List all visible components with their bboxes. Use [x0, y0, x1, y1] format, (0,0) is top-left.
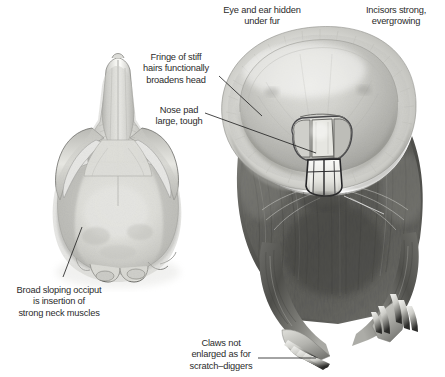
- mole-head-frontal-illustration: [220, 25, 430, 370]
- annotation-broad-sloping-occiput: Broad sloping occiput is insertion of st…: [2, 285, 116, 319]
- annotation-fringe-of-stiff-hairs: Fringe of stiff hairs functionally broad…: [134, 52, 218, 86]
- mole-skull-dorsal-illustration: [50, 54, 186, 289]
- annotation-incisors: Incisors strong, evergrowing: [348, 5, 444, 28]
- illustration-figure: Eye and ear hidden under fur Incisors st…: [0, 0, 445, 377]
- hidden-ear-region: [357, 86, 371, 95]
- annotation-claws-not-enlarged: Claws not enlarged as for scratch–digger…: [178, 338, 264, 372]
- nose-pad: [292, 114, 352, 160]
- hidden-eye-region: [265, 88, 279, 97]
- annotation-eye-and-ear: Eye and ear hidden under fur: [206, 5, 318, 28]
- incisors: [306, 159, 342, 196]
- anatomical-illustration-canvas: [0, 0, 445, 377]
- annotation-nose-pad: Nose pad large, tough: [140, 105, 218, 128]
